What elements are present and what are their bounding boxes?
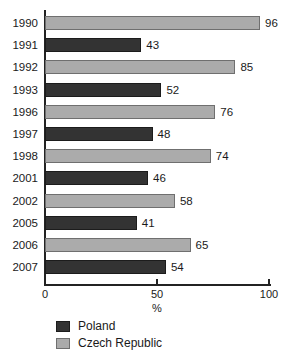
bar-value-label: 74	[216, 145, 229, 167]
bar	[45, 194, 175, 208]
bar	[45, 216, 137, 230]
bar	[45, 127, 153, 141]
x-axis-tick-label: 50	[137, 288, 177, 301]
plot-area: 1990961991431992851993521996761997481998…	[0, 0, 288, 300]
bar-row: 200258	[0, 190, 288, 212]
bar	[45, 83, 161, 97]
bar-value-label: 85	[240, 56, 253, 78]
bar-row: 200146	[0, 167, 288, 189]
bar-row: 199143	[0, 34, 288, 56]
category-label: 2001	[0, 167, 38, 189]
x-axis-tick-label: 0	[25, 288, 65, 301]
category-label: 1997	[0, 123, 38, 145]
bar	[45, 238, 191, 252]
bar-row: 199285	[0, 56, 288, 78]
x-axis-tick	[156, 279, 158, 285]
category-label: 1998	[0, 145, 38, 167]
bar-row: 199676	[0, 101, 288, 123]
bar-value-label: 52	[166, 79, 179, 101]
category-label: 1990	[0, 12, 38, 34]
bar-value-label: 43	[146, 34, 159, 56]
category-label: 1996	[0, 101, 38, 123]
bar	[45, 149, 211, 163]
bar-value-label: 41	[142, 212, 155, 234]
category-label: 2002	[0, 190, 38, 212]
legend-item: Czech Republic	[56, 335, 162, 352]
category-label: 1993	[0, 79, 38, 101]
category-label: 2006	[0, 234, 38, 256]
legend-label: Poland	[78, 318, 115, 335]
bar-row: 199874	[0, 145, 288, 167]
bar	[45, 171, 148, 185]
x-axis-tick	[44, 279, 46, 285]
bar-row: 199352	[0, 79, 288, 101]
x-axis-line	[44, 284, 271, 286]
bar-value-label: 65	[196, 234, 209, 256]
legend-item: Poland	[56, 318, 162, 335]
x-axis-tick-label: 100	[249, 288, 288, 301]
chart-legend: PolandCzech Republic	[56, 318, 162, 352]
legend-swatch	[56, 321, 70, 332]
bar-row: 199748	[0, 123, 288, 145]
bar	[45, 16, 260, 30]
bar	[45, 38, 141, 52]
bar-value-label: 96	[265, 12, 278, 34]
bar	[45, 260, 166, 274]
bar-value-label: 76	[220, 101, 233, 123]
horizontal-bar-chart: 1990961991431992851993521996761997481998…	[0, 0, 288, 358]
bar-row: 199096	[0, 12, 288, 34]
bar-row: 200541	[0, 212, 288, 234]
bar-value-label: 58	[180, 190, 193, 212]
legend-label: Czech Republic	[78, 335, 162, 352]
bar-value-label: 48	[158, 123, 171, 145]
bar-row: 200665	[0, 234, 288, 256]
x-axis-title: %	[137, 302, 177, 315]
bar	[45, 105, 215, 119]
legend-swatch	[56, 338, 70, 349]
category-label: 2007	[0, 256, 38, 278]
category-label: 1992	[0, 56, 38, 78]
bar-value-label: 54	[171, 256, 184, 278]
bar-value-label: 46	[153, 167, 166, 189]
bar	[45, 60, 235, 74]
category-label: 1991	[0, 34, 38, 56]
bar-row: 200754	[0, 256, 288, 278]
x-axis-tick	[268, 279, 270, 285]
category-label: 2005	[0, 212, 38, 234]
